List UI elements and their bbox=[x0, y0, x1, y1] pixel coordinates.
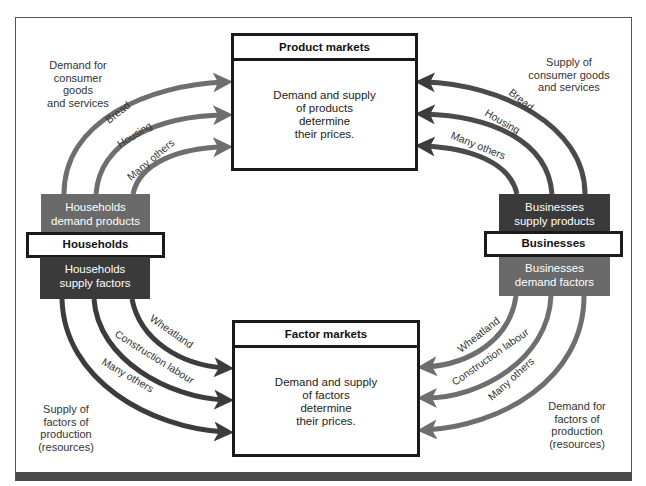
businesses-supply-line: Businesses bbox=[499, 200, 610, 214]
businesses-to-product-arrows bbox=[424, 82, 585, 194]
note-line: Demand for bbox=[38, 59, 118, 72]
product-markets-line: their prices. bbox=[234, 128, 415, 141]
note-supply-factors: Supply of factors of production (resourc… bbox=[31, 403, 101, 453]
businesses-label: Businesses bbox=[484, 231, 623, 257]
product-markets-title: Product markets bbox=[234, 36, 415, 61]
flow-label-hp-housing: Housing bbox=[115, 119, 154, 150]
households-demand-products: Households demand products bbox=[41, 194, 150, 233]
factor-markets-line: of factors bbox=[235, 389, 417, 402]
factor-markets-title: Factor markets bbox=[235, 323, 417, 348]
product-markets-box: Product markets Demand and supply of pro… bbox=[231, 33, 418, 171]
note-line: (resources) bbox=[541, 438, 613, 451]
note-demand-factors: Demand for factors of production (resour… bbox=[541, 400, 613, 450]
households-label: Households bbox=[26, 232, 165, 258]
factor-markets-description: Demand and supply of factors determine t… bbox=[235, 348, 417, 428]
note-demand-consumer-goods: Demand for consumer goods and services bbox=[38, 59, 118, 109]
note-line: consumer goods bbox=[524, 69, 614, 82]
note-line: production bbox=[541, 425, 613, 438]
businesses-demand-line: Businesses bbox=[499, 261, 610, 275]
flow-label-hf-wheatland: Wheatland bbox=[148, 312, 196, 351]
businesses-supply-products: Businesses supply products bbox=[499, 194, 610, 233]
note-line: factors of bbox=[31, 416, 101, 429]
note-line: and services bbox=[38, 97, 118, 110]
note-line: factors of bbox=[541, 413, 613, 426]
note-supply-consumer-goods: Supply of consumer goods and services bbox=[524, 56, 614, 94]
factor-markets-box: Factor markets Demand and supply of fact… bbox=[232, 320, 420, 457]
households-demand-line: Households bbox=[41, 200, 150, 214]
product-markets-line: determine bbox=[234, 115, 415, 128]
note-line: production bbox=[31, 428, 101, 441]
product-markets-description: Demand and supply of products determine … bbox=[234, 61, 415, 141]
product-markets-line: of products bbox=[234, 102, 415, 115]
note-line: Supply of bbox=[31, 403, 101, 416]
households-demand-line: demand products bbox=[41, 214, 150, 228]
businesses-demand-factors: Businesses demand factors bbox=[499, 257, 610, 296]
factor-markets-line: Demand and supply bbox=[235, 376, 417, 389]
factor-markets-line: their prices. bbox=[235, 415, 417, 428]
factor-markets-line: determine bbox=[235, 402, 417, 415]
households-supply-factors: Households supply factors bbox=[40, 257, 150, 299]
product-markets-line: Demand and supply bbox=[234, 89, 415, 102]
note-line: (resources) bbox=[31, 441, 101, 454]
note-line: and services bbox=[524, 81, 614, 94]
note-line: Demand for bbox=[541, 400, 613, 413]
note-line: consumer goods bbox=[38, 72, 118, 97]
businesses-supply-line: supply products bbox=[499, 214, 610, 228]
businesses-demand-line: demand factors bbox=[499, 275, 610, 289]
households-supply-line: Households bbox=[40, 262, 150, 276]
note-line: Supply of bbox=[524, 56, 614, 69]
households-supply-line: supply factors bbox=[40, 276, 150, 290]
